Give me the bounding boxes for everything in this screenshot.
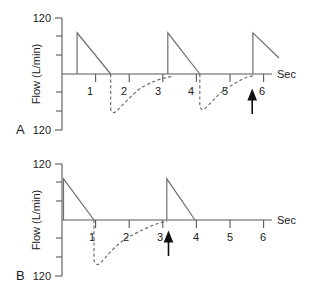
y-axis-bottom-value-a: 120 <box>33 124 51 136</box>
x-tick-label-b-5: 5 <box>227 231 233 243</box>
x-tick-label-a-6: 6 <box>259 85 265 97</box>
x-tick-label-a-2: 2 <box>121 85 127 97</box>
y-axis-top-value-a: 120 <box>33 12 51 24</box>
panel-letter-a: A <box>16 122 25 137</box>
x-tick-label-a-4: 4 <box>188 85 194 97</box>
panel-b-plot: 120 120 Flow (L/min) 1 2 3 4 5 6 Sec <box>0 146 312 292</box>
inspiratory-ramp-a-1 <box>77 33 111 74</box>
respiratory-flow-figure: 120 120 Flow (L/min) 1 2 3 4 5 6 Sec <box>0 0 312 292</box>
panel-a-plot: 120 120 Flow (L/min) 1 2 3 4 5 6 Sec <box>0 0 312 146</box>
y-axis-top-value-b: 120 <box>33 158 51 170</box>
event-arrow-a <box>248 90 256 114</box>
inspiratory-ramp-b-1 <box>64 179 95 220</box>
panel-letter-b: B <box>16 268 25 283</box>
x-tick-label-b-4: 4 <box>193 231 199 243</box>
x-tick-label-a-3: 3 <box>155 85 161 97</box>
panel-a: 120 120 Flow (L/min) 1 2 3 4 5 6 Sec <box>0 0 312 146</box>
panel-b: 120 120 Flow (L/min) 1 2 3 4 5 6 Sec <box>0 146 312 292</box>
inspiratory-ramp-b-2 <box>167 179 195 220</box>
y-axis-label-b: Flow (L/min) <box>30 190 42 251</box>
x-axis-label-a: Sec <box>277 68 296 80</box>
x-tick-label-b-2: 2 <box>123 231 129 243</box>
inspiratory-ramp-a-2 <box>168 33 200 74</box>
x-tick-label-b-6: 6 <box>260 231 266 243</box>
inspiratory-ramp-a-3 <box>253 33 279 74</box>
x-tick-label-a-1: 1 <box>87 85 93 97</box>
x-axis-label-b: Sec <box>277 214 296 226</box>
x-tick-label-b-3: 3 <box>157 231 163 243</box>
y-axis-label-a: Flow (L/min) <box>30 44 42 105</box>
y-axis-bottom-value-b: 120 <box>33 270 51 282</box>
event-arrow-b <box>165 232 173 256</box>
